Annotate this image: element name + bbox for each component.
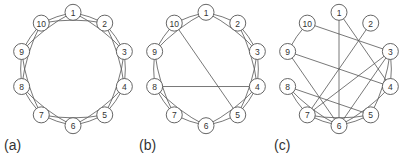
node-6: 6 <box>198 118 214 134</box>
node-10: 10 <box>299 15 315 31</box>
node-label: 4 <box>388 82 393 92</box>
node-4: 4 <box>249 79 265 95</box>
node-label: 10 <box>303 19 313 29</box>
node-9: 9 <box>147 43 163 59</box>
node-8: 8 <box>280 79 296 95</box>
node-7: 7 <box>166 107 182 123</box>
node-label: 8 <box>19 82 24 92</box>
node-label: 9 <box>19 47 24 57</box>
node-label: 5 <box>235 110 240 120</box>
node-label: 3 <box>122 47 127 57</box>
node-2: 2 <box>230 15 246 31</box>
node-8: 8 <box>147 79 163 95</box>
node-5: 5 <box>97 107 113 123</box>
node-label: 4 <box>255 82 260 92</box>
node-10: 10 <box>166 15 182 31</box>
node-3: 3 <box>116 43 132 59</box>
node-label: 5 <box>102 110 107 120</box>
node-9: 9 <box>14 43 30 59</box>
panel-a-regular-ring-lattice: 12345678910 (a) <box>4 4 132 153</box>
node-label: 2 <box>102 19 107 29</box>
node-3: 3 <box>249 43 265 59</box>
node-7: 7 <box>299 107 315 123</box>
node-label: 5 <box>368 110 373 120</box>
edge-3-7 <box>307 51 390 114</box>
node-1: 1 <box>198 4 214 20</box>
node-2: 2 <box>363 15 379 31</box>
edge-10-5 <box>174 23 237 115</box>
node-label: 7 <box>305 110 310 120</box>
node-label: 1 <box>337 8 342 18</box>
panel-b-label: (b) <box>139 137 156 153</box>
node-label: 7 <box>172 110 177 120</box>
node-label: 6 <box>71 121 76 131</box>
node-label: 1 <box>71 8 76 18</box>
node-label: 3 <box>255 47 260 57</box>
node-label: 6 <box>204 121 209 131</box>
node-10: 10 <box>33 15 49 31</box>
node-4: 4 <box>382 79 398 95</box>
node-4: 4 <box>116 79 132 95</box>
node-6: 6 <box>65 118 81 134</box>
node-5: 5 <box>363 107 379 123</box>
node-3: 3 <box>382 43 398 59</box>
node-label: 7 <box>39 110 44 120</box>
node-label: 3 <box>388 47 393 57</box>
node-label: 8 <box>152 82 157 92</box>
node-label: 6 <box>337 121 342 131</box>
node-label: 9 <box>152 47 157 57</box>
node-label: 2 <box>368 19 373 29</box>
node-8: 8 <box>14 79 30 95</box>
node-label: 2 <box>235 19 240 29</box>
panel-a-label: (a) <box>4 137 21 153</box>
node-7: 7 <box>33 107 49 123</box>
node-6: 6 <box>331 118 347 134</box>
panel-a-nodes: 12345678910 <box>14 4 133 133</box>
panel-c-label: (c) <box>274 137 290 153</box>
network-diagram-figure: 12345678910 (a) 12345678910 (b) 12345678… <box>0 0 414 159</box>
node-1: 1 <box>331 4 347 20</box>
node-label: 8 <box>285 82 290 92</box>
node-5: 5 <box>230 107 246 123</box>
node-2: 2 <box>97 15 113 31</box>
panel-b-small-world-network: 12345678910 (b) <box>139 4 265 153</box>
node-label: 10 <box>170 19 180 29</box>
node-9: 9 <box>280 43 296 59</box>
panel-c-random-network: 12345678910 (c) <box>274 4 398 153</box>
node-label: 9 <box>285 47 290 57</box>
node-label: 1 <box>204 8 209 18</box>
node-label: 10 <box>37 19 47 29</box>
node-label: 4 <box>122 82 127 92</box>
node-1: 1 <box>65 4 81 20</box>
